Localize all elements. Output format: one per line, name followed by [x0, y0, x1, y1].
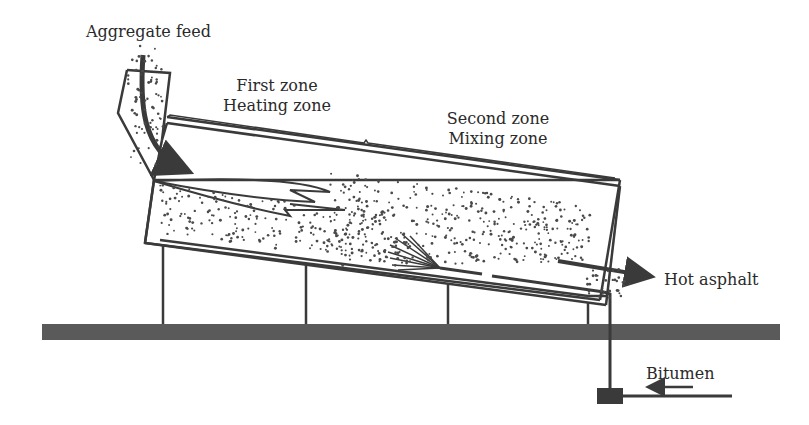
label-aggregate-feed: Aggregate feed	[86, 22, 211, 42]
first-zone-line1: First zone	[222, 76, 332, 96]
label-second-zone: Second zone Mixing zone	[438, 109, 558, 149]
bitumen-pump	[597, 388, 623, 404]
burner-flame	[154, 179, 345, 216]
label-bitumen: Bitumen	[646, 364, 715, 384]
label-first-zone: First zone Heating zone	[222, 76, 332, 116]
second-zone-line2: Mixing zone	[438, 129, 558, 149]
second-zone-line1: Second zone	[438, 109, 558, 129]
hot-asphalt-arrow	[558, 261, 648, 276]
diagram-drawing	[0, 0, 809, 425]
first-zone-line2: Heating zone	[222, 96, 332, 116]
drum-mix-plant-diagram: Aggregate feed First zone Heating zone S…	[0, 0, 809, 425]
label-hot-asphalt: Hot asphalt	[664, 270, 758, 290]
ground-base	[42, 324, 780, 340]
